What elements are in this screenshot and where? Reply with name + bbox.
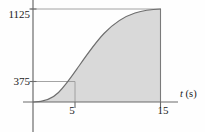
y-tick-label-1125: 1125 <box>0 9 30 20</box>
x-axis-title-unit: (s) <box>183 88 197 99</box>
area-under-curve <box>34 9 161 102</box>
x-tick-label-5: 5 <box>60 105 84 116</box>
x-tick-label-15: 15 <box>152 105 174 116</box>
y-tick-label-375: 375 <box>0 76 30 87</box>
chart-plot-area <box>0 0 205 132</box>
x-axis-title: t (s) <box>180 89 197 100</box>
chart-figure: 1125 375 5 15 t (s) <box>0 0 205 132</box>
